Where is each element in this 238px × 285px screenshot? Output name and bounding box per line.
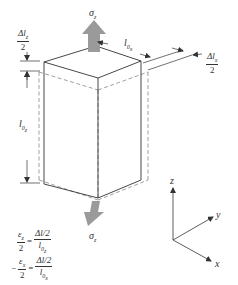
stress-label-bottom: σz: [89, 231, 96, 243]
y-axis: [173, 217, 213, 240]
x-axis: [173, 240, 211, 261]
equation-ex: − εx2 = Δl/2l0x: [11, 256, 52, 281]
delta-lz-over-2-label: Δlz 2: [17, 29, 29, 52]
height-l0z-label: l0z: [19, 119, 27, 133]
delta-lx-over-2-label: Δlx 2: [206, 52, 218, 75]
equation-ez: εz2 = Δl/2l0z: [17, 229, 51, 254]
original-box: [44, 46, 141, 198]
width-l0x-label: l0x: [124, 38, 132, 52]
axis-label-x: x: [215, 259, 219, 269]
stress-arrow-up: [82, 20, 106, 52]
stress-arrow-down: [84, 201, 104, 226]
stress-label-top: σz: [89, 8, 96, 20]
axis-label-z: z: [170, 176, 174, 186]
coordinate-axes: [173, 188, 213, 261]
delta-lz-dimension: [20, 52, 40, 80]
axis-label-y: y: [216, 210, 220, 220]
delta-lx-dimension: [143, 48, 202, 70]
deformed-box-dashed: [39, 72, 148, 200]
